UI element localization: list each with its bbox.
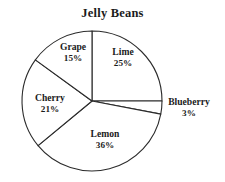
pie-label-percent: 15%: [60, 53, 86, 63]
pie-label-percent: 21%: [35, 104, 65, 114]
pie-label-lemon: Lemon36%: [91, 129, 120, 150]
pie-chart-canvas: [0, 0, 225, 182]
pie-label-name: Lemon: [91, 129, 120, 140]
pie-label-name: Lime: [112, 47, 133, 58]
pie-label-blueberry: Blueberry3%: [168, 97, 210, 118]
pie-label-grape: Grape15%: [60, 42, 86, 63]
pie-label-cherry: Cherry21%: [35, 93, 65, 114]
pie-label-name: Blueberry: [168, 97, 210, 108]
pie-label-lime: Lime25%: [112, 47, 133, 68]
pie-chart-figure: Jelly Beans Lime25%Blueberry3%Lemon36%Ch…: [0, 0, 225, 182]
pie-label-percent: 25%: [112, 58, 133, 68]
pie-label-name: Grape: [60, 42, 86, 53]
pie-label-name: Cherry: [35, 93, 65, 104]
pie-label-percent: 3%: [168, 108, 210, 118]
pie-label-percent: 36%: [91, 140, 120, 150]
